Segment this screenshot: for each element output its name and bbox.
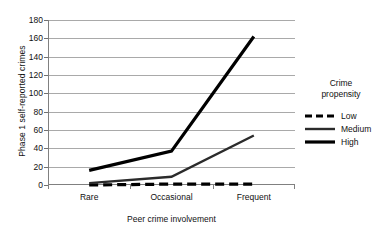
y-axis-title: Phase 1 self-reported crimes — [17, 11, 27, 191]
legend-label: Low — [341, 111, 357, 121]
y-tick-label: 100 — [29, 88, 43, 98]
series-group — [48, 20, 295, 185]
x-tick — [48, 185, 49, 189]
series-line-medium — [89, 136, 254, 184]
x-tick-label: Frequent — [237, 192, 271, 202]
x-tick — [294, 185, 295, 189]
legend-label: High — [341, 137, 358, 147]
series-line-low — [89, 184, 254, 185]
legend-label: Medium — [341, 124, 371, 134]
y-tick-label: 20 — [34, 162, 43, 172]
y-tick-label: 140 — [29, 52, 43, 62]
y-tick-label: 80 — [34, 107, 43, 117]
y-tick-label: 160 — [29, 33, 43, 43]
plot-area: 020406080100120140160180 RareOccasionalF… — [48, 20, 295, 185]
x-tick-label: Occasional — [150, 192, 192, 202]
x-tick — [213, 185, 214, 189]
x-axis-title: Peer crime involvement — [48, 214, 295, 224]
y-tick-label: 40 — [34, 143, 43, 153]
legend-title-line-2: propensity — [305, 89, 377, 100]
legend-item-medium: Medium — [305, 122, 389, 135]
y-tick-label: 0 — [38, 180, 43, 190]
legend-swatch-medium — [305, 124, 335, 134]
legend-title: Crime propensity — [305, 78, 377, 100]
legend-swatch-high — [305, 137, 335, 147]
legend-swatch-low — [305, 111, 335, 121]
y-tick-label: 120 — [29, 70, 43, 80]
y-tick-label: 60 — [34, 125, 43, 135]
series-line-high — [89, 37, 254, 171]
legend-items: LowMediumHigh — [305, 109, 389, 148]
y-tick-label: 180 — [29, 15, 43, 25]
x-tick-label: Rare — [80, 192, 98, 202]
chart-figure: Phase 1 self-reported crimes 02040608010… — [0, 0, 390, 238]
legend-item-low: Low — [305, 109, 389, 122]
legend-title-line-1: Crime — [305, 78, 377, 89]
legend-item-high: High — [305, 135, 389, 148]
legend: Crime propensity LowMediumHigh — [305, 78, 389, 148]
